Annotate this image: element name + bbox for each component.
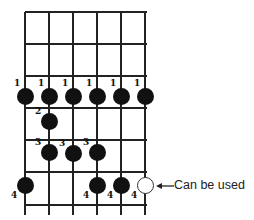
finger-number: 1 xyxy=(38,79,44,88)
finger-number: 4 xyxy=(107,191,113,200)
finger-dot xyxy=(65,145,82,162)
fret-line xyxy=(25,107,147,109)
finger-dot xyxy=(17,88,34,105)
fret-line xyxy=(25,11,147,13)
finger-number: 1 xyxy=(86,79,92,88)
annotation-label: Can be used xyxy=(174,179,245,192)
finger-dot xyxy=(89,177,106,194)
finger-number: 1 xyxy=(62,79,68,88)
finger-dot xyxy=(65,88,82,105)
finger-dot xyxy=(41,113,58,130)
fret-line xyxy=(25,171,147,173)
finger-dot xyxy=(113,88,130,105)
finger-number: 1 xyxy=(110,79,116,88)
fret-line xyxy=(25,43,147,45)
finger-dot xyxy=(41,88,58,105)
fret-line xyxy=(25,204,147,206)
finger-number: 4 xyxy=(11,191,17,200)
finger-number: 3 xyxy=(83,138,89,147)
finger-dot xyxy=(89,144,106,161)
finger-dot xyxy=(137,88,154,105)
finger-dot xyxy=(41,144,58,161)
finger-number: 2 xyxy=(35,107,41,116)
arrow-left-icon xyxy=(155,180,175,192)
finger-number: 3 xyxy=(59,139,65,148)
finger-number: 4 xyxy=(131,191,137,200)
finger-number: 4 xyxy=(83,191,89,200)
finger-dot xyxy=(17,177,34,194)
finger-number: 1 xyxy=(14,79,20,88)
finger-dot xyxy=(113,177,130,194)
fret-line xyxy=(25,75,147,77)
finger-number: 3 xyxy=(35,138,41,147)
finger-number: 1 xyxy=(134,79,140,88)
string-line xyxy=(72,12,74,215)
optional-note-circle xyxy=(137,177,154,194)
finger-dot xyxy=(89,88,106,105)
